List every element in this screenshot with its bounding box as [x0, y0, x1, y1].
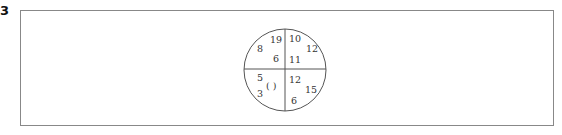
- tl-value-3: 6: [273, 53, 279, 64]
- tl-value-2: 8: [257, 43, 263, 54]
- tl-value-1: 19: [270, 34, 282, 45]
- br-value-1: 12: [289, 74, 301, 85]
- tr-value-2: 12: [306, 43, 318, 54]
- circle-puzzle-diagram: 19 8 6 10 12 11 5 3 ( ) 12 15 6: [0, 0, 562, 135]
- tr-value-3: 11: [289, 54, 301, 65]
- br-value-3: 6: [291, 95, 297, 106]
- tr-value-1: 10: [289, 33, 301, 44]
- bl-value-2: 3: [257, 88, 263, 99]
- bl-blank: ( ): [266, 80, 276, 91]
- bl-value-1: 5: [257, 72, 263, 83]
- br-value-2: 15: [305, 84, 317, 95]
